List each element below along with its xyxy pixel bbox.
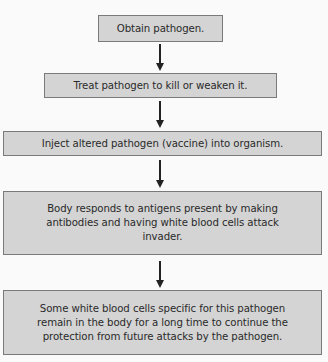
- step-body-responds: Body responds to antigens present by mak…: [3, 191, 322, 255]
- step-obtain-pathogen: Obtain pathogen.: [98, 15, 223, 42]
- step-label: Obtain pathogen.: [117, 22, 204, 36]
- arrow-down-icon: [155, 44, 165, 71]
- arrow-down-icon: [155, 160, 165, 188]
- step-memory-cells: Some white blood cells specific for this…: [3, 290, 322, 355]
- step-treat-pathogen: Treat pathogen to kill or weaken it.: [44, 73, 277, 98]
- step-label: Some white blood cells specific for this…: [34, 302, 291, 344]
- arrow-down-icon: [155, 101, 165, 128]
- step-label: Treat pathogen to kill or weaken it.: [74, 79, 248, 93]
- step-label: Body responds to antigens present by mak…: [44, 202, 281, 244]
- arrow-down-icon: [155, 261, 165, 288]
- step-label: Inject altered pathogen (vaccine) into o…: [42, 137, 283, 151]
- step-inject-vaccine: Inject altered pathogen (vaccine) into o…: [3, 131, 322, 156]
